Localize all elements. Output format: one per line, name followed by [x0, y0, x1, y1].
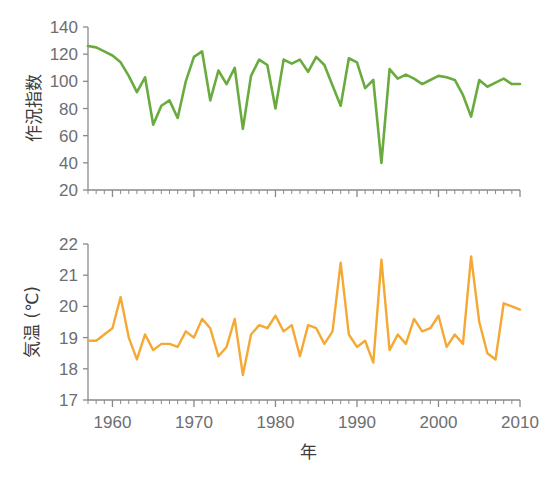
figure-two-panel-line-charts: 20406080100120140 作況指数 171819202122 1960…: [0, 0, 544, 481]
x-tick-label: 1990: [338, 413, 376, 432]
crop-index-axis-ticks: [83, 27, 520, 197]
y-tick-label: 60: [59, 127, 78, 146]
crop-index-series-line: [88, 46, 520, 163]
crop-index-axis-lines: [88, 27, 520, 190]
temperature-y-axis-title: 気温 (℃): [22, 286, 42, 358]
y-tick-label: 22: [59, 235, 78, 254]
y-tick-label: 19: [59, 329, 78, 348]
temperature-series-line: [88, 256, 520, 375]
crop-index-y-axis-title: 作況指数: [24, 74, 44, 142]
x-tick-label: 1980: [257, 413, 295, 432]
x-tick-label: 2000: [420, 413, 458, 432]
y-tick-label: 20: [59, 297, 78, 316]
y-tick-label: 140: [50, 18, 78, 37]
x-tick-label: 1970: [175, 413, 213, 432]
x-tick-label: 2010: [501, 413, 539, 432]
y-tick-label: 40: [59, 154, 78, 173]
x-tick-label: 1960: [94, 413, 132, 432]
panel-temperature: 171819202122 196019701980199020002010 気温…: [22, 235, 539, 462]
y-tick-label: 120: [50, 45, 78, 64]
x-axis-title: 年: [300, 442, 317, 462]
y-tick-label: 80: [59, 100, 78, 119]
y-tick-label: 18: [59, 360, 78, 379]
temperature-axis-ticks: [83, 244, 520, 407]
temperature-axis-lines: [88, 244, 520, 400]
y-tick-label: 100: [50, 72, 78, 91]
crop-index-y-tick-labels: 20406080100120140: [50, 18, 78, 200]
y-tick-label: 17: [59, 391, 78, 410]
temperature-x-tick-labels: 196019701980199020002010: [94, 413, 539, 432]
chart-svg-canvas: 20406080100120140 作況指数 171819202122 1960…: [0, 0, 544, 481]
y-tick-label: 21: [59, 266, 78, 285]
temperature-y-tick-labels: 171819202122: [59, 235, 78, 410]
panel-crop-index: 20406080100120140 作況指数: [24, 18, 520, 200]
y-tick-label: 20: [59, 181, 78, 200]
